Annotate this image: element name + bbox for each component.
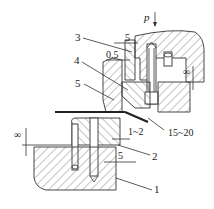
part-1-base bbox=[34, 147, 116, 190]
dim-1-2: 1~2 bbox=[128, 126, 143, 137]
label-2: 2 bbox=[152, 150, 158, 162]
force-label: p bbox=[143, 11, 150, 23]
upper-dowel bbox=[164, 52, 172, 66]
label-1: 1 bbox=[154, 183, 160, 195]
sheet-bend bbox=[125, 112, 148, 122]
dim-15-20: 15~20 bbox=[168, 127, 193, 138]
force-arrow bbox=[153, 12, 157, 27]
dim-upper-5: 5 bbox=[125, 32, 130, 43]
leader-15-20 bbox=[148, 118, 164, 130]
leader-1 bbox=[116, 178, 152, 190]
dim-left-infinity: ∞ bbox=[14, 129, 21, 140]
label-3: 3 bbox=[75, 31, 81, 43]
dim-right-infinity: ∞ bbox=[183, 66, 190, 77]
right-block bbox=[158, 82, 190, 112]
label-4: 4 bbox=[74, 54, 80, 66]
dim-lower-5: 5 bbox=[118, 150, 123, 161]
label-5: 5 bbox=[75, 77, 81, 89]
dim-0-5: 0.5 bbox=[106, 49, 119, 60]
die-assembly-diagram: p 3 4 5 2 1 5 0.5 ∞ ∞ 1~2 15~20 5 bbox=[0, 0, 214, 209]
part-5-wedge bbox=[122, 82, 150, 108]
